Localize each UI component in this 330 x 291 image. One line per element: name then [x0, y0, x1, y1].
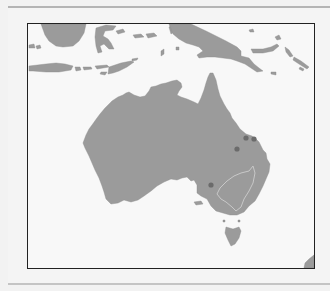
new-britain-island [251, 44, 279, 53]
sunda-island [132, 58, 138, 61]
new-guinea-landmass [169, 24, 263, 72]
sunda-island [161, 49, 164, 56]
tasmania [225, 227, 241, 246]
kangaroo-island [194, 201, 203, 205]
island [29, 44, 35, 48]
map-marker[interactable] [234, 146, 239, 151]
sunda-island [83, 67, 92, 70]
island [249, 29, 254, 32]
australia-mainland [83, 73, 270, 215]
sunda-island [75, 67, 81, 71]
map-marker[interactable] [208, 182, 213, 187]
sunda-island [95, 65, 109, 69]
island [238, 220, 240, 222]
map-svg [28, 24, 314, 268]
sunda-island [100, 72, 107, 75]
java-island [29, 63, 73, 72]
solomon-island [299, 67, 304, 71]
sulawesi-landmass [95, 25, 116, 53]
island [133, 34, 144, 38]
new-zealand-partial [304, 255, 314, 268]
map-marker[interactable] [243, 135, 248, 140]
timor-island [108, 61, 134, 74]
island [271, 72, 276, 75]
island [146, 33, 157, 38]
island [275, 35, 281, 40]
island [36, 45, 41, 49]
bottom-rule [8, 283, 330, 285]
sunda-island [176, 47, 179, 50]
island [223, 220, 225, 222]
solomon-island [293, 57, 309, 69]
map-frame[interactable] [27, 23, 315, 269]
island [116, 29, 125, 34]
borneo-landmass [41, 24, 86, 47]
solomon-island [285, 47, 293, 57]
map-marker[interactable] [251, 136, 256, 141]
